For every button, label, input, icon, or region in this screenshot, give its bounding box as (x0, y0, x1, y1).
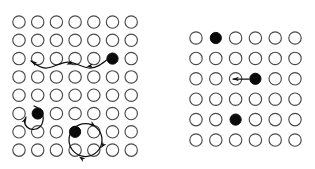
lattice-site-empty (13, 71, 25, 83)
lattice-site-empty (190, 113, 202, 125)
lattice-site-empty (190, 93, 202, 105)
lattice-site-empty (125, 71, 137, 83)
lattice-site-occupied (210, 32, 221, 43)
lattice-site-empty (32, 71, 44, 83)
lattice-site-empty (249, 32, 261, 44)
lattice-site-empty (125, 16, 137, 28)
lattice-site-empty (106, 126, 118, 138)
lattice-site-empty (249, 93, 261, 105)
lattice-site-empty (269, 32, 281, 44)
lattice-site-empty (88, 52, 100, 64)
lattice-site-empty (50, 107, 62, 119)
circular-loop-arrow (69, 124, 102, 157)
lattice-diagram-canvas (0, 0, 315, 169)
lattice-site-empty (190, 73, 202, 85)
lattice-site-empty (210, 134, 222, 146)
lattice-site-empty (229, 93, 241, 105)
lattice-site-empty (125, 107, 137, 119)
lattice-site-empty (69, 89, 81, 101)
lattice-site-empty (269, 113, 281, 125)
lattice-site-empty (13, 126, 25, 138)
lattice-site-empty (210, 113, 222, 125)
lattice-site-empty (210, 93, 222, 105)
lattice-site-empty (190, 32, 202, 44)
lattice-site-empty (106, 71, 118, 83)
lattice-site-empty (229, 52, 241, 64)
lattice-site-empty (190, 52, 202, 64)
lattice-site-empty (289, 73, 301, 85)
lattice-hopping-figure (0, 0, 315, 169)
lattice-site-empty (289, 32, 301, 44)
lattice-site-occupied (250, 73, 261, 84)
lattice-site-empty (125, 126, 137, 138)
lattice-site-empty (69, 107, 81, 119)
lattice-site-empty (106, 144, 118, 156)
lattice-site-empty (50, 144, 62, 156)
lattice-site-empty (32, 144, 44, 156)
lattice-site-empty (289, 113, 301, 125)
lattice-site-empty (13, 89, 25, 101)
lattice-site-empty (106, 107, 118, 119)
lattice-site-empty (125, 89, 137, 101)
lattice-site-empty (249, 113, 261, 125)
lattice-site-empty (50, 89, 62, 101)
lattice-site-empty (229, 32, 241, 44)
lattice-site-empty (269, 134, 281, 146)
lattice-site-empty (69, 71, 81, 83)
lattice-site-empty (88, 34, 100, 46)
lattice-site-empty (88, 107, 100, 119)
lattice-site-empty (88, 16, 100, 28)
lattice-site-empty (249, 52, 261, 64)
lattice-site-occupied (230, 114, 241, 125)
lattice-site-empty (229, 134, 241, 146)
lattice-site-empty (50, 34, 62, 46)
lattice-site-empty (13, 52, 25, 64)
lattice-site-empty (69, 144, 81, 156)
lattice-site-empty (269, 73, 281, 85)
lattice-site-empty (13, 144, 25, 156)
lattice-site-empty (13, 34, 25, 46)
lattice-site-empty (88, 71, 100, 83)
lattice-site-empty (249, 134, 261, 146)
lattice-site-empty (289, 52, 301, 64)
lattice-site-empty (190, 134, 202, 146)
lattice-site-empty (106, 89, 118, 101)
lattice-site-empty (13, 16, 25, 28)
lattice-site-empty (32, 16, 44, 28)
lattice-site-empty (69, 16, 81, 28)
lattice-site-empty (106, 16, 118, 28)
lattice-site-empty (125, 52, 137, 64)
lattice-site-empty (32, 89, 44, 101)
lattice-site-empty (289, 134, 301, 146)
lattice-site-empty (269, 52, 281, 64)
lattice-site-empty (269, 93, 281, 105)
lattice-site-empty (289, 93, 301, 105)
lattice-site-empty (69, 34, 81, 46)
left-panel-sites-group (13, 16, 138, 157)
lattice-site-empty (125, 144, 137, 156)
lattice-site-empty (88, 89, 100, 101)
lattice-site-empty (32, 126, 44, 138)
lattice-site-empty (50, 16, 62, 28)
lattice-site-empty (32, 34, 44, 46)
lattice-site-empty (106, 34, 118, 46)
right-panel-sites-group (190, 32, 301, 146)
lattice-site-empty (88, 126, 100, 138)
lattice-site-empty (50, 126, 62, 138)
lattice-site-empty (210, 52, 222, 64)
lattice-site-empty (50, 71, 62, 83)
lattice-site-empty (210, 73, 222, 85)
lattice-site-empty (13, 107, 25, 119)
lattice-site-empty (125, 34, 137, 46)
